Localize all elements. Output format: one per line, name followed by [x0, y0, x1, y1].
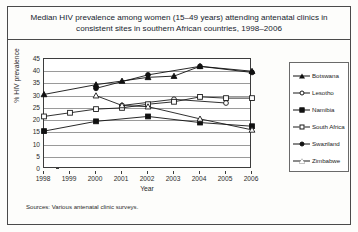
plot-area	[43, 58, 251, 168]
legend-label: Zimbabwe	[312, 157, 340, 164]
data-point-marker	[68, 110, 73, 115]
x-tick-label: 2001	[114, 175, 129, 182]
series-botswana	[41, 63, 255, 96]
legend-marker-icon	[293, 139, 310, 149]
x-axis-tick-labels: 199819992000200120022003200420052006	[43, 171, 251, 183]
data-point-marker	[224, 101, 229, 106]
x-tick-mark	[121, 171, 122, 174]
legend-item-zimbabwe[interactable]: Zimbabwe	[293, 152, 346, 169]
data-point-marker	[198, 64, 203, 69]
y-tick-label: 25	[33, 103, 40, 110]
page-title: Median HIV prevalence among women (15–49…	[7, 12, 351, 34]
data-point-marker	[146, 72, 151, 77]
x-tick-label: 2000	[88, 175, 103, 182]
y-tick-label: 30	[33, 91, 40, 98]
x-tick-mark	[225, 171, 226, 174]
data-point-marker	[146, 114, 151, 119]
legend-item-south-africa[interactable]: South Africa	[293, 118, 346, 135]
x-tick-label: 2004	[192, 175, 207, 182]
data-point-marker	[224, 96, 229, 101]
legend-marker-icon	[293, 71, 310, 81]
legend-item-swaziland[interactable]: Swaziland	[293, 135, 346, 152]
plot-area-wrapper	[43, 58, 251, 168]
legend-label: Lesotho	[312, 89, 334, 96]
legend-label: Botswana	[312, 72, 339, 79]
data-point-marker	[198, 94, 203, 99]
data-point-marker	[42, 114, 47, 119]
data-point-marker	[93, 93, 99, 98]
x-tick-mark	[173, 171, 174, 174]
x-tick-mark	[147, 171, 148, 174]
y-tick-label: 5	[36, 152, 40, 159]
y-tick-label: 40	[33, 67, 40, 74]
chart-legend: BotswanaLesothoNamibiaSouth AfricaSwazil…	[289, 62, 349, 172]
legend-item-namibia[interactable]: Namibia	[293, 101, 346, 118]
x-axis-title: Year	[43, 185, 251, 192]
data-point-marker	[42, 129, 47, 134]
x-tick-mark	[43, 171, 44, 174]
legend-label: South Africa	[312, 123, 345, 130]
x-tick-label: 1998	[36, 175, 51, 182]
x-tick-mark	[199, 171, 200, 174]
legend-marker-icon	[293, 105, 310, 115]
legend-marker-icon	[293, 122, 310, 132]
x-tick-mark	[69, 171, 70, 174]
legend-marker-icon	[293, 156, 310, 166]
y-tick-label: 20	[33, 116, 40, 123]
legend-item-lesotho[interactable]: Lesotho	[293, 84, 346, 101]
data-point-marker	[94, 107, 99, 112]
data-point-marker	[94, 86, 99, 91]
series-line	[44, 66, 252, 94]
legend-label: Swaziland	[312, 140, 340, 147]
x-tick-label: 2003	[166, 175, 181, 182]
source-note: Sources: Various antenatal clinic survey…	[26, 203, 138, 210]
figure-container: Median HIV prevalence among women (15–49…	[0, 0, 358, 232]
x-tick-label: 1999	[62, 175, 77, 182]
legend-marker-icon	[293, 88, 310, 98]
data-point-marker	[250, 70, 255, 75]
data-point-marker	[250, 96, 255, 101]
y-axis-tick-labels: 051015202530354045	[16, 52, 40, 174]
x-tick-label: 2002	[140, 175, 155, 182]
data-point-marker	[94, 119, 99, 124]
x-tick-label: 2005	[218, 175, 233, 182]
y-tick-label: 15	[33, 128, 40, 135]
x-tick-mark	[95, 171, 96, 174]
legend-item-botswana[interactable]: Botswana	[293, 67, 346, 84]
y-tick-label: 45	[33, 55, 40, 62]
x-tick-label: 2006	[244, 175, 259, 182]
y-tick-label: 0	[36, 165, 40, 172]
legend-label: Namibia	[312, 106, 334, 113]
data-point-marker	[172, 99, 177, 104]
series-layer	[44, 59, 252, 169]
y-tick-label: 35	[33, 79, 40, 86]
x-tick-mark	[251, 171, 252, 174]
y-tick-label: 10	[33, 140, 40, 147]
chart-title-box: Median HIV prevalence among women (15–49…	[7, 6, 351, 40]
